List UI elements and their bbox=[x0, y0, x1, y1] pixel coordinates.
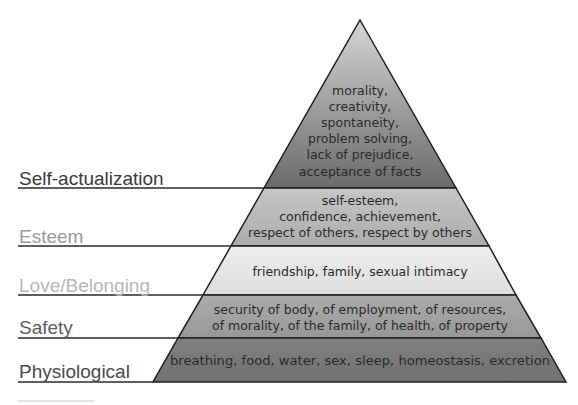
tier-text-line: friendship, family, sexual intimacy bbox=[252, 264, 468, 279]
level-label-love-belonging: Love/Belonging bbox=[19, 275, 150, 296]
tier-text-line: breathing, food, water, sex, sleep, home… bbox=[170, 353, 550, 368]
tier-text-line: creativity, bbox=[329, 99, 392, 114]
tier-text-line: confidence, achievement, bbox=[279, 209, 441, 224]
tier-text-line: lack of prejudice, bbox=[306, 147, 413, 162]
tier-text-line: morality, bbox=[332, 83, 388, 98]
tier-text-line: respect of others, respect by others bbox=[248, 225, 472, 240]
tier-text-line: self-esteem, bbox=[322, 193, 399, 208]
tier-text-line: problem solving, bbox=[308, 131, 412, 146]
level-label-esteem: Esteem bbox=[19, 226, 83, 247]
level-label-physiological: Physiological bbox=[19, 361, 130, 382]
level-label-self-actualization: Self-actualization bbox=[19, 168, 164, 189]
tier-text-line: of morality, of the family, of health, o… bbox=[212, 318, 509, 333]
tier-text-line: security of body, of employment, of reso… bbox=[214, 302, 506, 317]
level-label-safety: Safety bbox=[19, 317, 73, 338]
tier-text-line: acceptance of facts bbox=[299, 164, 421, 179]
hierarchy-pyramid: Self-actualization Esteem Love/Belonging… bbox=[0, 0, 578, 405]
tier-text-line: spontaneity, bbox=[321, 115, 399, 130]
